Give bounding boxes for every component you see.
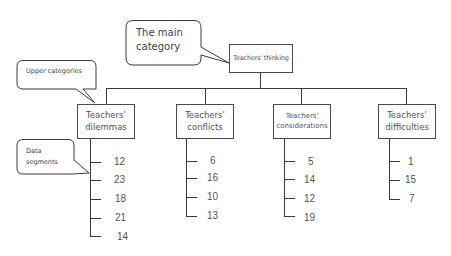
segment-value: 13: [207, 210, 218, 221]
segment-value: 14: [117, 231, 128, 242]
segment-value: 23: [114, 174, 125, 185]
category-node-conflicts: Teachers'conflicts: [176, 104, 234, 139]
category-node-difficulties: Teachers'difficulties: [378, 104, 436, 139]
callout-data-segments: Data segments: [26, 146, 58, 168]
root-node-teachers-thinking: Teachers' thinking: [229, 44, 293, 73]
segment-value: 6: [210, 155, 216, 166]
segment-value: 7: [409, 193, 415, 204]
segment-value: 16: [207, 172, 218, 183]
segment-value: 14: [304, 174, 315, 185]
category-node-considerations: Teachers'considerations: [273, 104, 331, 139]
segment-value: 1: [408, 156, 414, 167]
category-node-dilemmas: Teachers'dilemmas: [77, 104, 135, 139]
segment-value: 18: [115, 193, 126, 204]
segment-value: 21: [115, 212, 126, 223]
segment-value: 10: [207, 191, 218, 202]
callout-main-category: The main category: [136, 26, 183, 54]
callout-upper-categories: Upper categories: [26, 67, 82, 75]
segment-value: 19: [304, 212, 315, 223]
segment-value: 15: [405, 174, 416, 185]
segment-value: 12: [114, 156, 125, 167]
segment-value: 5: [308, 156, 314, 167]
segment-value: 12: [304, 193, 315, 204]
